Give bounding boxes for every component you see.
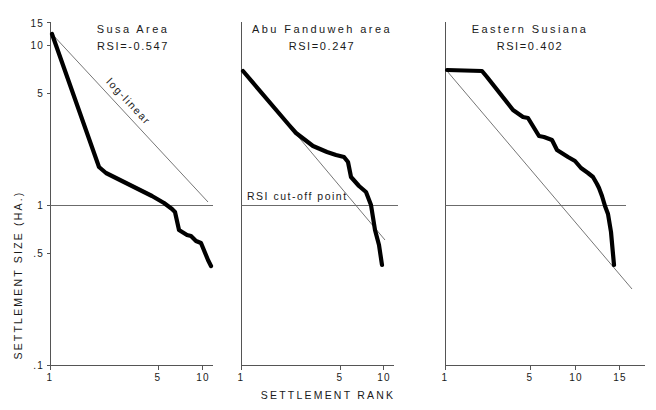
panel2-title: Abu Fanduweh area xyxy=(252,23,392,35)
y-axis-group: SETTLEMENT SIZE (HA.) 15 10 5 1 .5 .1 xyxy=(12,18,51,371)
y-tick-label-point1: .1 xyxy=(33,360,44,371)
panel3-x-tick-label-15: 15 xyxy=(613,372,627,383)
panel1-x-tick-label-1: 1 xyxy=(47,372,54,383)
y-tick-label-10: 10 xyxy=(30,40,44,51)
panel2-rank-size-curve xyxy=(243,71,382,265)
panel2-x-tick-label-5: 5 xyxy=(337,372,344,383)
panel3-title: Eastern Susiana xyxy=(472,23,589,35)
y-axis-title: SETTLEMENT SIZE (HA.) xyxy=(12,190,24,359)
panel2-subtitle: RSI=0.247 xyxy=(289,40,356,52)
panel-abu-fanduweh: 1 5 10 Abu Fanduweh area RSI=0.247 RSI c… xyxy=(238,22,398,383)
panel1-x-tick-label-5: 5 xyxy=(155,372,162,383)
panel2-x-tick-label-10: 10 xyxy=(377,372,391,383)
rank-size-figure: SETTLEMENT SIZE (HA.) 15 10 5 1 .5 .1 1 … xyxy=(0,0,656,410)
y-tick-label-15: 15 xyxy=(30,18,44,29)
panel3-x-tick-label-10: 10 xyxy=(569,372,583,383)
panel3-x-tick-label-1: 1 xyxy=(442,372,449,383)
panel2-x-tick-label-1: 1 xyxy=(238,372,245,383)
y-tick-label-5: 5 xyxy=(37,88,44,99)
panel1-rank-size-curve xyxy=(52,34,211,266)
panel1-log-linear-line xyxy=(52,34,208,202)
panel3-log-linear-line xyxy=(447,71,632,289)
panel-susa: 1 5 10 Susa Area RSI=-0.547 log-linear xyxy=(47,23,213,383)
panel3-x-tick-label-5: 5 xyxy=(527,372,534,383)
y-tick-label-point5: .5 xyxy=(33,248,44,259)
panel2-rsi-cutoff-label: RSI cut-off point xyxy=(247,190,348,202)
y-tick-label-1: 1 xyxy=(37,200,44,211)
figure-canvas: SETTLEMENT SIZE (HA.) 15 10 5 1 .5 .1 1 … xyxy=(0,0,656,410)
panel1-log-linear-label: log-linear xyxy=(104,76,153,127)
panel3-rank-size-curve xyxy=(447,70,614,265)
panel1-subtitle: RSI=-0.547 xyxy=(97,40,169,52)
panel1-title: Susa Area xyxy=(97,23,169,35)
x-axis-title: SETTLEMENT RANK xyxy=(261,389,395,401)
panel1-x-tick-label-10: 10 xyxy=(196,372,210,383)
panel3-subtitle: RSI=0.402 xyxy=(497,40,564,52)
panel-eastern-susiana: 1 5 10 15 Eastern Susiana RSI=0.402 xyxy=(442,22,645,383)
